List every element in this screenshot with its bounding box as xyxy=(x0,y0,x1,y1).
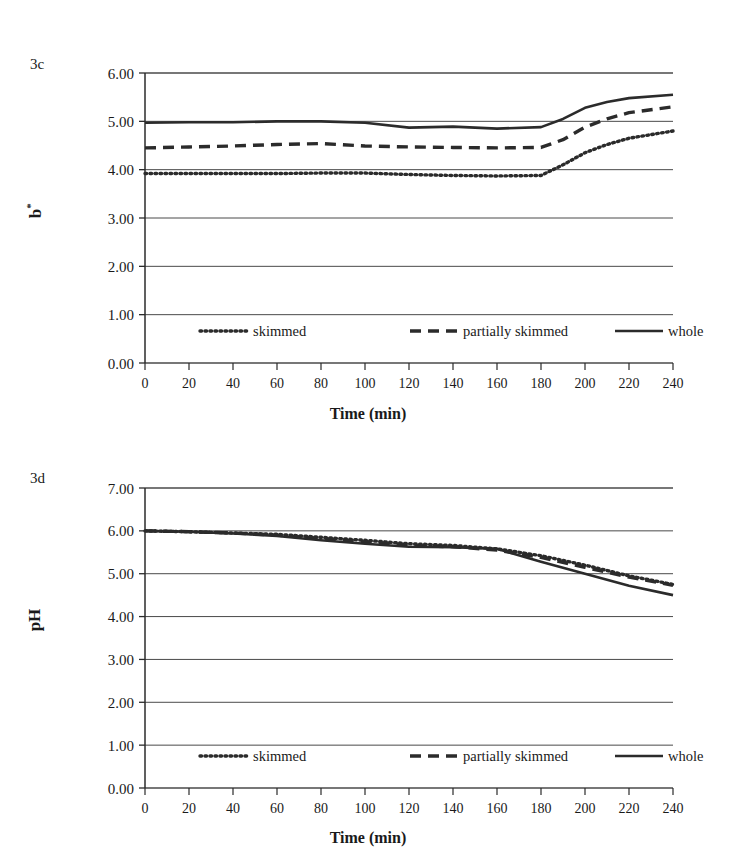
y-tick-label: 0.00 xyxy=(108,356,134,372)
x-tick-label: 100 xyxy=(355,376,376,391)
x-tick-label: 220 xyxy=(619,376,640,391)
x-tick-label: 180 xyxy=(531,801,552,816)
y-tick-label: 3.00 xyxy=(108,652,134,668)
legend-label-whole: whole xyxy=(668,748,703,764)
panel-3d: 3d pH 0.001.002.003.004.005.006.007.0002… xyxy=(0,430,736,867)
legend-label-partially-skimmed: partially skimmed xyxy=(463,748,569,764)
x-tick-label: 80 xyxy=(314,376,328,391)
legend-label-whole: whole xyxy=(668,323,703,339)
x-tick-label: 0 xyxy=(142,376,149,391)
x-tick-label: 120 xyxy=(399,376,420,391)
y-tick-label: 2.00 xyxy=(108,695,134,711)
series-line-whole xyxy=(145,531,673,595)
legend-label-partially-skimmed: partially skimmed xyxy=(463,323,569,339)
x-tick-label: 0 xyxy=(142,801,149,816)
x-axis-title-3c: Time (min) xyxy=(0,405,736,423)
x-tick-label: 100 xyxy=(355,801,376,816)
x-axis-title-3d: Time (min) xyxy=(0,829,736,847)
chart-3d: 0.001.002.003.004.005.006.007.0002040608… xyxy=(0,430,736,830)
x-tick-label: 140 xyxy=(443,376,464,391)
y-tick-label: 6.00 xyxy=(108,523,134,539)
y-tick-label: 5.00 xyxy=(108,114,134,130)
y-tick-label: 4.00 xyxy=(108,609,134,625)
x-tick-label: 120 xyxy=(399,801,420,816)
y-tick-label: 0.00 xyxy=(108,781,134,797)
y-tick-label: 1.00 xyxy=(108,307,134,323)
x-tick-label: 20 xyxy=(182,801,196,816)
y-tick-label: 2.00 xyxy=(108,259,134,275)
y-tick-label: 5.00 xyxy=(108,566,134,582)
x-tick-label: 60 xyxy=(270,376,284,391)
chart-3c: 0.001.002.003.004.005.006.00020406080100… xyxy=(0,0,736,400)
legend-label-skimmed: skimmed xyxy=(253,323,307,339)
x-tick-label: 240 xyxy=(663,376,684,391)
y-tick-label: 7.00 xyxy=(108,481,134,497)
x-tick-label: 160 xyxy=(487,801,508,816)
y-tick-label: 4.00 xyxy=(108,162,134,178)
x-tick-label: 80 xyxy=(314,801,328,816)
x-tick-label: 200 xyxy=(575,801,596,816)
x-tick-label: 60 xyxy=(270,801,284,816)
x-tick-label: 140 xyxy=(443,801,464,816)
x-tick-label: 40 xyxy=(226,801,240,816)
y-tick-label: 3.00 xyxy=(108,211,134,227)
y-tick-label: 1.00 xyxy=(108,738,134,754)
x-tick-label: 220 xyxy=(619,801,640,816)
x-tick-label: 240 xyxy=(663,801,684,816)
panel-3c: 3c b* 0.001.002.003.004.005.006.00020406… xyxy=(0,0,736,440)
x-tick-label: 40 xyxy=(226,376,240,391)
x-tick-label: 180 xyxy=(531,376,552,391)
x-tick-label: 200 xyxy=(575,376,596,391)
x-tick-label: 160 xyxy=(487,376,508,391)
legend-label-skimmed: skimmed xyxy=(253,748,307,764)
x-tick-label: 20 xyxy=(182,376,196,391)
y-tick-label: 6.00 xyxy=(108,66,134,82)
